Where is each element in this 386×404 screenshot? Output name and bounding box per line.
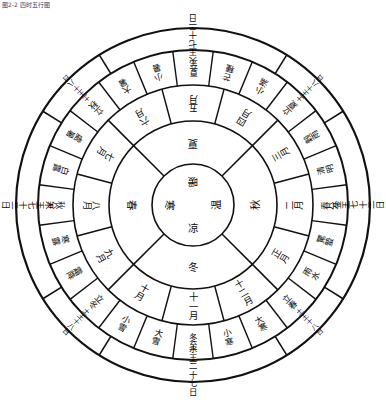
svg-text:暖: 暖: [187, 176, 198, 188]
svg-text:月: 月: [293, 201, 304, 210]
svg-text:秋: 秋: [249, 199, 261, 210]
svg-text:種: 種: [224, 62, 235, 74]
svg-text:温: 温: [210, 199, 222, 210]
svg-text:寒: 寒: [224, 335, 236, 348]
five-phase-calendar-wheel: 火王七十二日金王七十二日水王二十七日木王七十二日土王十八日土王十八日土王十八日土…: [0, 0, 386, 404]
ring-labels: 火王七十二日金王七十二日水王二十七日木王七十二日土王十八日土王十八日土王十八日土…: [1, 13, 385, 397]
svg-text:分: 分: [47, 201, 57, 210]
svg-text:日: 日: [1, 201, 11, 209]
svg-text:凉: 凉: [188, 222, 198, 234]
svg-text:蟄: 蟄: [323, 236, 336, 248]
svg-text:露: 露: [50, 163, 62, 174]
diagram-canvas: 图2-2 四时五行图 火王七十二日金王七十二日水王二十七日木王七十二日土王十八日…: [0, 0, 386, 404]
svg-text:夏: 夏: [187, 138, 198, 150]
svg-text:月: 月: [82, 201, 93, 210]
svg-text:明: 明: [324, 163, 336, 174]
svg-text:暑: 暑: [151, 62, 162, 74]
svg-text:至: 至: [189, 59, 198, 69]
svg-text:日: 日: [189, 13, 197, 23]
svg-text:月: 月: [189, 94, 198, 105]
svg-text:寒: 寒: [164, 200, 176, 211]
svg-text:至: 至: [189, 341, 198, 351]
svg-text:日: 日: [375, 201, 385, 209]
svg-text:分: 分: [329, 201, 339, 210]
svg-text:雪: 雪: [151, 336, 162, 348]
svg-text:日: 日: [189, 387, 197, 397]
svg-text:露: 露: [50, 236, 62, 247]
svg-text:春: 春: [126, 200, 138, 211]
svg-text:冬: 冬: [188, 261, 199, 273]
svg-text:月: 月: [189, 310, 198, 321]
